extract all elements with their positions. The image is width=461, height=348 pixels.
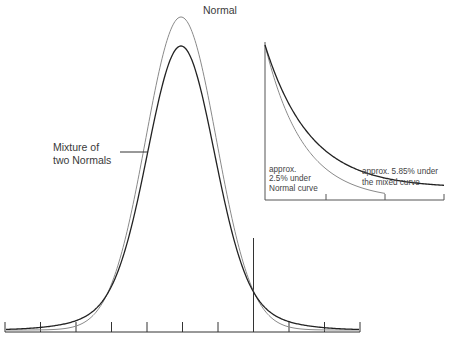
- normal-label: Normal: [203, 4, 237, 16]
- inset-mixed-label-line1: approx. 5.85% under: [362, 167, 438, 177]
- normal-vs-mixture-figure: Normal Mixture of two Normals approx. 2.…: [0, 0, 461, 348]
- inset-mixed-label-line2: the mixed curve: [362, 178, 420, 188]
- mixture-label-line2: two Normals: [53, 154, 111, 166]
- inset-normal-label-line2: 2.5% under: [269, 174, 311, 184]
- mixture-label-line1: Mixture of: [53, 141, 99, 153]
- main-x-axis: [5, 322, 360, 332]
- inset-normal-label-line3: Normal curve: [269, 184, 318, 194]
